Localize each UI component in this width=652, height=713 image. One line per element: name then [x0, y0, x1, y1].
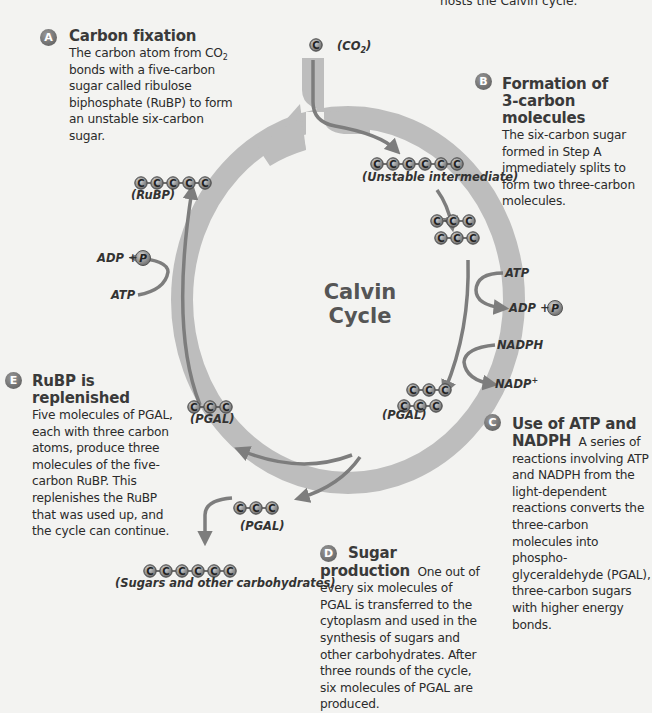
svg-text:C: C — [425, 385, 432, 396]
svg-text:C: C — [437, 159, 444, 170]
split-row1-carbon: C — [463, 215, 475, 227]
nadp-label: NADP+ — [495, 376, 538, 391]
step-a-badge: A — [40, 29, 57, 46]
rubp-carbon: C — [199, 177, 211, 189]
step-b-title-1: Formation of — [502, 76, 642, 93]
step-c-title-2: NADPH — [512, 432, 571, 450]
split-row2-carbon: C — [435, 232, 447, 244]
pgal-out-carbon: C — [234, 502, 246, 514]
step-a-title: Carbon fixation — [69, 28, 239, 45]
pgal-right-row1-carbon: C — [423, 384, 435, 396]
svg-text:C: C — [222, 402, 229, 413]
center-title-line2: Cycle — [305, 304, 415, 328]
svg-text:C: C — [421, 159, 428, 170]
right-descent-arrow — [445, 260, 468, 390]
split-row1-carbon: C — [447, 215, 459, 227]
svg-text:C: C — [169, 178, 176, 189]
unstable-carbon: C — [403, 158, 415, 170]
pgal-right-row2-carbon: C — [430, 400, 442, 412]
step-c-title-1: Use of ATP and — [512, 416, 652, 433]
co2-carbon: C — [310, 39, 322, 51]
svg-text:C: C — [210, 566, 217, 577]
sugars-label: (Sugars and other carbohydrates) — [115, 576, 336, 590]
svg-text:C: C — [268, 503, 275, 514]
split-row2-carbon: C — [467, 232, 479, 244]
step-e: RuBP is replenished Five molecules of PG… — [32, 373, 184, 540]
pgal-out-carbon: C — [250, 502, 262, 514]
svg-text:C: C — [146, 566, 153, 577]
unstable-carbon: C — [387, 158, 399, 170]
svg-text:P: P — [139, 252, 147, 264]
svg-text:C: C — [465, 216, 472, 227]
pgal-left-label: (PGAL) — [190, 412, 235, 426]
split-row1-carbon: C — [431, 215, 443, 227]
unstable-carbon: C — [419, 158, 431, 170]
unstable-carbon: C — [371, 158, 383, 170]
step-a: Carbon fixation The carbon atom from CO2… — [69, 28, 239, 145]
step-e-badge: E — [5, 372, 22, 389]
svg-text:C: C — [178, 566, 185, 577]
svg-text:C: C — [409, 385, 416, 396]
svg-text:C: C — [441, 385, 448, 396]
step-b-body: The six-carbon sugar formed in Step A im… — [502, 127, 642, 210]
left-atp-label: ATP — [110, 288, 136, 302]
svg-text:C: C — [312, 40, 319, 51]
svg-text:C: C — [433, 216, 440, 227]
step-d-body: One out of every six molecules of PGAL i… — [320, 565, 480, 712]
right-atp-label: ATP — [504, 266, 530, 280]
svg-text:C: C — [190, 402, 197, 413]
step-c-badge: C — [484, 414, 501, 431]
svg-text:C: C — [226, 566, 233, 577]
svg-text:C: C — [185, 178, 192, 189]
pgal-out-label: (PGAL) — [240, 519, 285, 533]
step-c: Use of ATP and NADPH A series of reactio… — [512, 416, 652, 633]
svg-text:C: C — [437, 233, 444, 244]
svg-text:C: C — [137, 178, 144, 189]
unstable-carbon: C — [451, 158, 463, 170]
center-title-line1: Calvin — [305, 280, 415, 304]
svg-text:C: C — [206, 402, 213, 413]
svg-text:C: C — [469, 233, 476, 244]
step-b: Formation of 3-carbon molecules The six-… — [502, 76, 642, 210]
step-c-body: A series of reactions involving ATP and … — [512, 435, 651, 632]
svg-text:C: C — [236, 503, 243, 514]
svg-text:C: C — [453, 159, 460, 170]
left-phosphate-icon: P — [136, 251, 151, 266]
svg-text:C: C — [162, 566, 169, 577]
step-d-title: Sugar production — [320, 544, 410, 580]
right-atp-arrow — [476, 273, 503, 308]
rubp-label: (RuBP) — [131, 188, 175, 202]
svg-text:C: C — [405, 159, 412, 170]
step-e-body: Five molecules of PGAL, each with three … — [32, 407, 184, 540]
svg-text:C: C — [153, 178, 160, 189]
right-adp-label: ADP + — [508, 301, 550, 315]
unstable-carbon: C — [435, 158, 447, 170]
svg-text:C: C — [432, 401, 439, 412]
svg-text:C: C — [449, 216, 456, 227]
nadph-label: NADPH — [497, 338, 543, 352]
step-e-title: RuBP is replenished — [32, 373, 184, 407]
left-adp-label: ADP + — [96, 251, 138, 265]
step-b-badge: B — [475, 73, 492, 90]
svg-text:C: C — [252, 503, 259, 514]
step-d: Sugar production One out of every six mo… — [320, 545, 485, 713]
co2-label: (CO2) — [337, 39, 371, 55]
rubp-carbon: C — [183, 177, 195, 189]
sugar-arrow — [205, 498, 232, 540]
pgal-out-carbon: C — [266, 502, 278, 514]
svg-text:C: C — [389, 159, 396, 170]
svg-text:C: C — [453, 233, 460, 244]
svg-text:C: C — [194, 566, 201, 577]
svg-text:C: C — [201, 178, 208, 189]
center-title: Calvin Cycle — [305, 280, 415, 328]
right-phosphate-icon: P — [548, 301, 563, 316]
svg-text:C: C — [373, 159, 380, 170]
unstable-label: (Unstable intermediate) — [362, 170, 518, 184]
pgal-right-row1-carbon: C — [407, 384, 419, 396]
pgal-right-label: (PGAL) — [382, 408, 427, 422]
split-row2-carbon: C — [451, 232, 463, 244]
step-a-body: The carbon atom from CO2 bonds with a fi… — [69, 45, 239, 145]
svg-text:P: P — [551, 302, 559, 314]
pgal-right-row1-carbon: C — [439, 384, 451, 396]
